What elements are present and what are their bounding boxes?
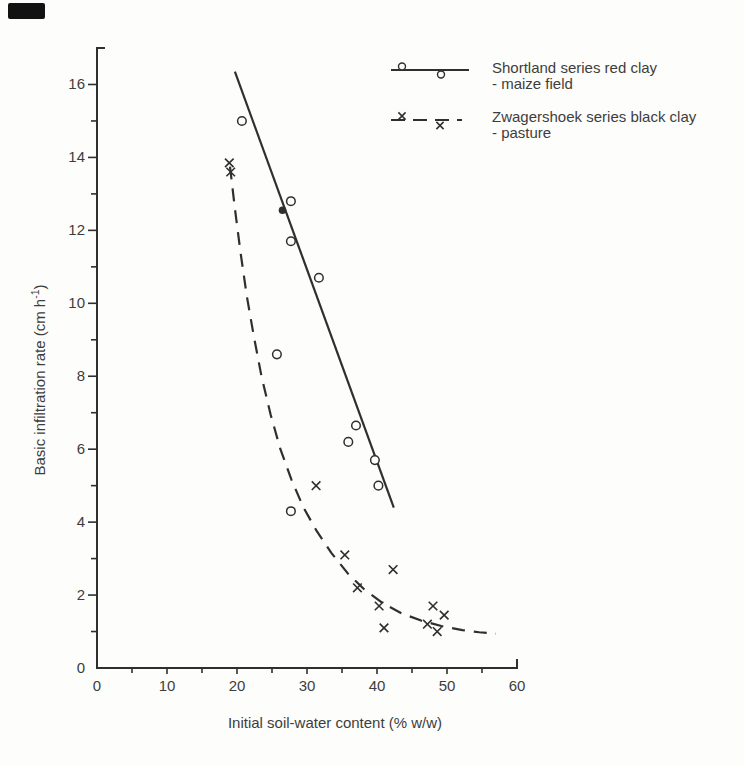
data-point-x xyxy=(353,583,362,592)
legend-x-marker-icon xyxy=(398,112,405,119)
data-point-circle xyxy=(287,237,296,246)
legend-entry-shortland: Shortland series red clay- maize field xyxy=(391,59,658,92)
tick-labels: 24681012141600102030405060 xyxy=(68,75,525,694)
legend-circle-marker-icon xyxy=(438,71,445,78)
legend-x-marker-icon xyxy=(436,122,443,129)
y-axis-tick-label: 16 xyxy=(68,75,85,92)
x-axis-tick-label: 50 xyxy=(439,677,456,694)
data-point-circle xyxy=(273,350,282,359)
legend: Shortland series red clay- maize fieldZw… xyxy=(391,59,697,141)
y-axis-tick-label: 10 xyxy=(68,294,85,311)
series-zwagershoek-markers xyxy=(225,159,449,636)
data-point-x xyxy=(225,159,234,168)
legend-circle-marker-icon xyxy=(399,63,406,70)
data-point-x xyxy=(375,602,384,611)
legend-sublabel-pasture: - pasture xyxy=(492,124,551,141)
data-point-x xyxy=(433,627,442,636)
y-axis-title: Basic infiltration rate (cm h-1) xyxy=(29,284,48,475)
y-axis-tick-label: 6 xyxy=(77,440,85,457)
legend-sublabel-maize-field: - maize field xyxy=(492,75,573,92)
data-point-x xyxy=(429,602,438,611)
axes xyxy=(97,48,517,668)
data-point-circle xyxy=(315,273,324,282)
scan-artifact-bar xyxy=(8,3,45,19)
data-point-circle xyxy=(352,421,361,430)
axis-frame xyxy=(97,48,517,668)
fit-curve-dashed-zwagershoek xyxy=(230,167,496,634)
data-point-circle xyxy=(371,456,380,465)
data-point-x xyxy=(341,551,350,560)
x-axis-tick-label: 30 xyxy=(299,677,316,694)
y-axis-tick-label: 2 xyxy=(77,586,85,603)
x-axis-tick-label: 40 xyxy=(369,677,386,694)
data-point-circle xyxy=(374,481,383,490)
x-axis-tick-label: 20 xyxy=(229,677,246,694)
data-point-circle xyxy=(287,507,296,516)
y-axis-tick-label: 4 xyxy=(77,513,85,530)
y-axis-tick-label: 14 xyxy=(68,148,85,165)
y-axis-tick-label: 12 xyxy=(68,221,85,238)
legend-entry-zwagershoek: Zwagershoek series black clay- pasture xyxy=(391,108,697,141)
data-point-x xyxy=(312,481,321,490)
legend-label-shortland: Shortland series red clay xyxy=(492,59,658,76)
series-shortland-markers xyxy=(238,117,383,516)
scanned-figure-page: 24681012141600102030405060Initial soil-w… xyxy=(0,0,744,765)
data-point-circle xyxy=(287,197,296,206)
data-point-x xyxy=(389,565,398,574)
y-axis-tick-label: 8 xyxy=(77,367,85,384)
x-axis-title: Initial soil-water content (% w/w) xyxy=(228,714,442,731)
y-axis-origin-label: 0 xyxy=(77,659,85,676)
fit-line-solid-shortland xyxy=(235,72,394,508)
data-point-x xyxy=(440,611,449,620)
data-point-circle xyxy=(344,438,353,447)
data-point-circle-filled xyxy=(279,207,287,215)
data-point-circle xyxy=(238,117,247,126)
x-axis-tick-label: 60 xyxy=(509,677,526,694)
infiltration-rate-chart: 24681012141600102030405060Initial soil-w… xyxy=(0,0,744,765)
x-axis-tick-label: 10 xyxy=(159,677,176,694)
legend-label-zwagershoek: Zwagershoek series black clay xyxy=(492,108,697,125)
axis-ticks xyxy=(88,84,482,674)
data-point-x xyxy=(380,624,389,633)
x-axis-tick-label: 0 xyxy=(93,677,101,694)
